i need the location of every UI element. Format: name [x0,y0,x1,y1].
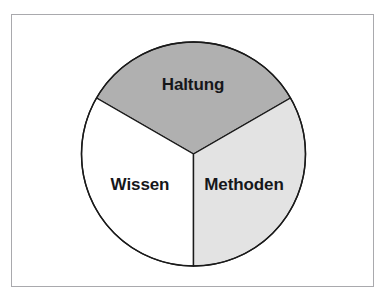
pie-chart: Haltung Wissen Methoden [0,0,390,304]
pie-label-methoden: Methoden [204,175,283,194]
pie-label-haltung: Haltung [162,75,225,94]
pie-label-wissen: Wissen [111,175,170,194]
screenshot-canvas: Haltung Wissen Methoden [0,0,390,304]
